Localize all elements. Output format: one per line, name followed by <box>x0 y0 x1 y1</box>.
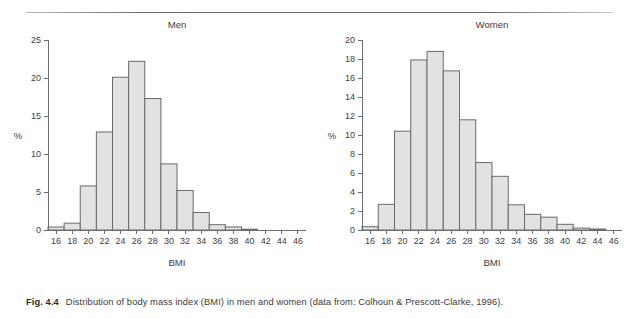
histogram-bar <box>492 176 508 230</box>
y-tick-label: 6 <box>350 168 355 178</box>
x-tick-label: 44 <box>277 236 287 246</box>
y-tick-label: 2 <box>350 206 355 216</box>
histogram-bar <box>64 223 80 230</box>
x-tick-label: 30 <box>164 236 174 246</box>
top-horizontal-rule <box>26 12 613 13</box>
x-tick-label: 22 <box>99 236 109 246</box>
histogram-bar <box>113 77 129 230</box>
x-tick-label: 36 <box>528 236 538 246</box>
histogram-bar <box>395 131 411 230</box>
x-tick-label: 46 <box>293 236 303 246</box>
x-tick-label: 32 <box>180 236 190 246</box>
x-tick-label: 38 <box>544 236 554 246</box>
y-axis-title: % <box>328 130 337 141</box>
chart-panel-men: 0510152025161820222426283032343638404244… <box>0 14 318 286</box>
y-tick-label: 0 <box>36 225 41 235</box>
histogram-bar <box>411 60 427 230</box>
y-tick-label: 14 <box>345 92 355 102</box>
y-tick-label: 25 <box>31 35 41 45</box>
x-tick-label: 22 <box>414 236 424 246</box>
figure-caption-text: Distribution of body mass index (BMI) in… <box>66 297 503 307</box>
histogram-bar <box>525 214 541 230</box>
x-tick-label: 38 <box>228 236 238 246</box>
x-tick-label: 28 <box>463 236 473 246</box>
x-tick-label: 34 <box>196 236 206 246</box>
histogram-bar <box>209 225 225 230</box>
x-tick-label: 26 <box>132 236 142 246</box>
x-tick-label: 30 <box>479 236 489 246</box>
x-tick-label: 16 <box>51 236 61 246</box>
x-tick-label: 44 <box>593 236 603 246</box>
histogram-bar <box>96 132 112 230</box>
y-tick-label: 18 <box>345 54 355 64</box>
histogram-bar <box>193 213 209 230</box>
y-tick-label: 8 <box>350 149 355 159</box>
histogram-men: 0510152025161820222426283032343638404244… <box>0 14 318 286</box>
x-ticks: 16182022242628303234363840424446 <box>365 230 619 246</box>
figure-caption: Fig. 4.4Distribution of body mass index … <box>26 296 626 309</box>
y-tick-label: 16 <box>345 73 355 83</box>
figure-label: Fig. 4.4 <box>26 297 59 307</box>
x-tick-label: 36 <box>212 236 222 246</box>
y-tick-label: 10 <box>345 130 355 140</box>
x-axis-title: BMI <box>483 257 500 268</box>
y-tick-label: 20 <box>31 73 41 83</box>
histogram-bar <box>443 71 459 230</box>
histogram-women: 0246810121416182016182022242628303234363… <box>318 14 636 286</box>
x-tick-label: 18 <box>67 236 77 246</box>
y-tick-label: 15 <box>31 111 41 121</box>
y-tick-label: 12 <box>345 111 355 121</box>
x-tick-label: 40 <box>245 236 255 246</box>
histogram-bar <box>80 186 96 230</box>
chart-panel-women: 0246810121416182016182022242628303234363… <box>318 14 636 286</box>
x-ticks: 16182022242628303234363840424446 <box>51 230 303 246</box>
x-tick-label: 46 <box>609 236 619 246</box>
y-tick-label: 10 <box>31 149 41 159</box>
x-axis-title: BMI <box>168 257 185 268</box>
bars-group <box>362 51 606 230</box>
y-ticks: 0510152025 <box>31 35 48 235</box>
y-tick-label: 4 <box>350 187 355 197</box>
chart-title: Men <box>168 19 187 30</box>
x-tick-label: 26 <box>446 236 456 246</box>
x-tick-label: 32 <box>495 236 505 246</box>
x-tick-label: 24 <box>116 236 126 246</box>
histogram-bar <box>378 204 394 230</box>
y-tick-label: 5 <box>36 187 41 197</box>
bars-group <box>48 61 258 230</box>
histogram-bar <box>557 224 573 230</box>
y-tick-label: 20 <box>345 35 355 45</box>
x-tick-label: 20 <box>398 236 408 246</box>
x-tick-label: 42 <box>576 236 586 246</box>
histogram-bar <box>177 190 193 230</box>
x-tick-label: 42 <box>261 236 271 246</box>
x-tick-label: 34 <box>511 236 521 246</box>
x-tick-label: 18 <box>381 236 391 246</box>
histogram-bar <box>460 120 476 230</box>
x-tick-label: 16 <box>365 236 375 246</box>
chart-title: Women <box>476 19 509 30</box>
figure-page: 0510152025161820222426283032343638404244… <box>0 0 637 319</box>
histogram-bar <box>508 205 524 230</box>
x-tick-label: 28 <box>148 236 158 246</box>
x-tick-label: 20 <box>83 236 93 246</box>
histogram-bar <box>129 61 145 230</box>
histogram-bar <box>427 51 443 230</box>
histogram-bar <box>145 99 161 230</box>
x-tick-label: 24 <box>430 236 440 246</box>
histogram-bar <box>476 163 492 230</box>
y-ticks: 02468101214161820 <box>345 35 362 235</box>
y-axis-title: % <box>14 130 23 141</box>
charts-row: 0510152025161820222426283032343638404244… <box>0 14 637 286</box>
histogram-bar <box>161 164 177 230</box>
x-tick-label: 40 <box>560 236 570 246</box>
y-tick-label: 0 <box>350 225 355 235</box>
histogram-bar <box>541 217 557 230</box>
